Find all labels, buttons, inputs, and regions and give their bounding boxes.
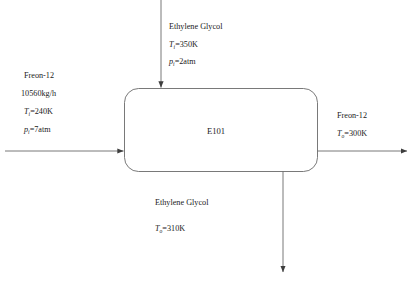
stream-label-cold-inlet-pressure: pi=7atm (24, 124, 51, 136)
stream-label-cold-outlet-temperature: To=300K (337, 128, 367, 140)
pressure-value: =2atm (175, 57, 196, 66)
stream-label-cold-inlet-flow-rate: 10560kg/h (21, 88, 56, 99)
stream-label-cold-inlet-temperature: Ti=240K (24, 106, 53, 118)
pressure-subscript: i (173, 61, 175, 67)
temperature-subscript: o (160, 228, 163, 234)
stream-label-hot-outlet-temperature: To=310K (155, 223, 185, 235)
stream-label-cold-outlet-name: Freon-12 (337, 110, 367, 121)
temperature-value: =310K (162, 224, 185, 233)
temperature-subscript: i (174, 44, 176, 50)
stream-label-hot-inlet-pressure: pi=2atm (169, 56, 196, 68)
temperature-subscript: o (342, 133, 345, 139)
temperature-symbol: T (169, 40, 174, 49)
stream-label-hot-inlet-temperature: Ti=350K (169, 39, 198, 51)
stream-label-hot-inlet-name: Ethylene Glycol (169, 21, 222, 32)
temperature-value: =240K (30, 107, 53, 116)
diagram-lines-layer (0, 0, 413, 282)
temperature-symbol: T (24, 107, 29, 116)
stream-label-hot-outlet-name: Ethylene Glycol (155, 197, 208, 208)
pressure-subscript: i (28, 129, 30, 135)
temperature-symbol: T (337, 129, 342, 138)
temperature-symbol: T (155, 224, 160, 233)
temperature-value: =350K (175, 40, 198, 49)
temperature-value: =300K (344, 129, 367, 138)
temperature-subscript: i (29, 111, 31, 117)
stream-label-cold-inlet-name: Freon-12 (24, 70, 54, 81)
equipment-tag-label: E101 (207, 126, 225, 136)
pressure-value: =7atm (30, 125, 51, 134)
process-flow-diagram: E101 Ethylene Glycol Ti=350K pi=2atm Fre… (0, 0, 413, 282)
